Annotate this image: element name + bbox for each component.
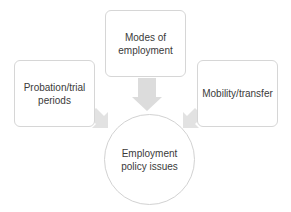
node-label-line1: Probation/trial <box>24 81 86 94</box>
node-mobility-transfer: Mobility/transfer <box>197 60 278 127</box>
node-probation-trial-periods: Probation/trial periods <box>14 60 95 127</box>
center-label-line2: policy issues <box>121 160 178 173</box>
node-label-line2: periods <box>24 94 86 107</box>
center-label-line1: Employment <box>121 147 178 160</box>
node-label-line2: employment <box>118 44 172 57</box>
node-label-line1: Modes of <box>118 31 172 44</box>
node-modes-of-employment: Modes of employment <box>105 10 186 77</box>
arrow-top-to-center <box>132 78 162 111</box>
node-label-line1: Mobility/transfer <box>202 87 273 100</box>
center-employment-policy-issues: Employment policy issues <box>104 114 195 205</box>
